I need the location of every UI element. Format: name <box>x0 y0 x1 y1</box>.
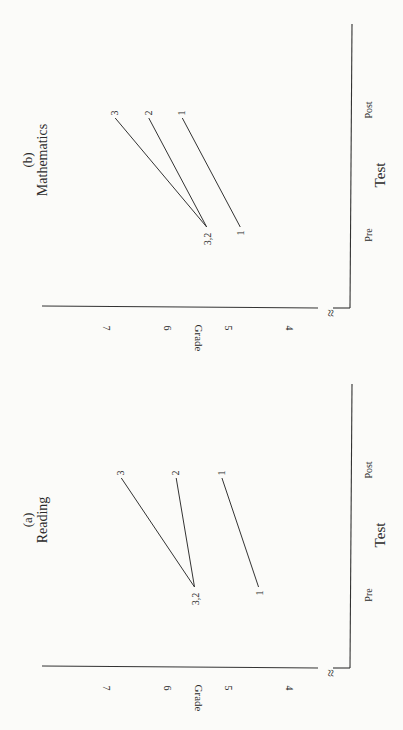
y-tick-label: 7 <box>101 326 112 331</box>
series-line-3 <box>115 118 207 227</box>
series-line-3 <box>121 478 194 587</box>
y-axis-line <box>42 666 318 668</box>
series-line-2 <box>176 478 194 587</box>
panel-title: Reading <box>35 497 50 544</box>
y-tick-label: 4 <box>284 326 295 331</box>
post-label-3: 3 <box>109 111 120 116</box>
y-tick-label: 4 <box>284 686 295 691</box>
y-axis-line <box>42 306 318 308</box>
panel-mathematics: ≈4567GradePrePostTest(b)Mathematics1233,… <box>20 24 388 352</box>
panel-label: (a) <box>20 513 35 527</box>
y-tick-label: 6 <box>162 686 173 691</box>
post-label-2: 2 <box>170 471 181 476</box>
y-tick-label: 5 <box>223 686 234 691</box>
x-tick-post: Post <box>363 101 374 118</box>
y-axis-label: Grade <box>193 325 205 352</box>
panel-title: Mathematics <box>35 124 50 196</box>
y-axis-label: Grade <box>193 685 205 712</box>
x-axis-label: Test <box>372 522 388 548</box>
pre-label-3-2: 3,2 <box>190 593 201 606</box>
series-line-1 <box>182 118 240 227</box>
pre-label-1: 1 <box>254 591 265 596</box>
pre-label-3-2: 3,2 <box>202 233 213 246</box>
x-axis-label: Test <box>372 162 388 188</box>
y-tick-label: 6 <box>162 326 173 331</box>
axis-break-icon: ≈ <box>323 669 338 677</box>
x-tick-pre: Pre <box>363 588 374 602</box>
chart-figure: ≈4567GradePrePostTest(a)Reading1233,21≈4… <box>0 0 403 730</box>
y-tick-label: 5 <box>223 326 234 331</box>
post-label-2: 2 <box>143 111 154 116</box>
panel-label: (b) <box>20 152 35 167</box>
x-tick-pre: Pre <box>363 228 374 242</box>
post-label-1: 1 <box>216 471 227 476</box>
x-axis-line <box>350 384 352 668</box>
pre-label-1: 1 <box>235 231 246 236</box>
post-label-1: 1 <box>176 111 187 116</box>
panel-reading: ≈4567GradePrePostTest(a)Reading1233,21 <box>20 384 388 712</box>
series-line-1 <box>222 478 259 587</box>
x-axis-line <box>350 24 352 308</box>
y-tick-label: 7 <box>101 686 112 691</box>
axis-break-icon: ≈ <box>323 309 338 317</box>
post-label-3: 3 <box>115 471 126 476</box>
x-tick-post: Post <box>363 461 374 478</box>
series-line-2 <box>149 118 207 227</box>
